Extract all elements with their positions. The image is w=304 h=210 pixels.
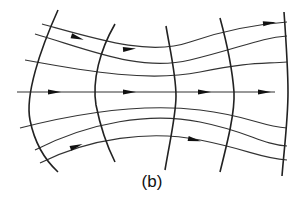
front-3: [165, 26, 176, 170]
arrowhead-icon: [123, 89, 136, 94]
ray-top-3: [25, 60, 287, 76]
arrowhead-icon: [258, 89, 271, 94]
arrowhead-icon: [198, 89, 211, 94]
arrowhead-icon: [48, 89, 61, 94]
ray-bot-2: [35, 118, 287, 150]
figure-label: (b): [0, 172, 304, 192]
arrowhead-icon: [123, 46, 136, 52]
ray-bot-3: [40, 136, 287, 163]
front-4: [220, 18, 234, 172]
